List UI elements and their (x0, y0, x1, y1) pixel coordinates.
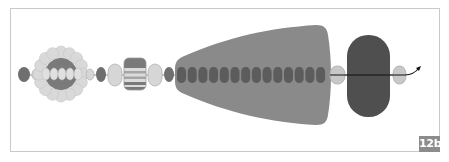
striped-bead (124, 58, 146, 90)
dark-bead (96, 67, 106, 82)
light-bead (108, 64, 122, 86)
bead-diagram (0, 0, 449, 162)
figure-label-badge: 12b (419, 136, 440, 152)
flower-inner-beads (42, 68, 82, 80)
dark-bead (18, 67, 30, 82)
dark-bead (164, 67, 174, 82)
pill-bead (347, 35, 390, 117)
light-bead (148, 64, 162, 86)
light-bead (86, 69, 94, 80)
flower-cluster (33, 46, 89, 102)
